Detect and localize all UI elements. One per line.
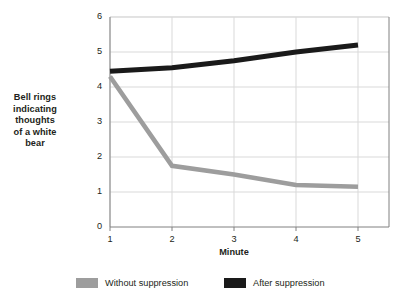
y-tick-label: 2: [86, 151, 102, 161]
y-tick-label: 6: [86, 11, 102, 21]
plot-area: [0, 0, 411, 306]
chart-figure: Bell rings indicating thoughts of a whit…: [0, 0, 411, 306]
x-tick-label: 5: [350, 234, 366, 244]
x-tick-label: 4: [288, 234, 304, 244]
x-tick-label: 3: [226, 234, 242, 244]
y-tick-label: 4: [86, 81, 102, 91]
legend-swatch-icon: [224, 278, 246, 288]
legend-item-without-suppression: Without suppression: [76, 275, 188, 291]
legend-swatch-icon: [76, 278, 98, 288]
legend-item-after-suppression: After suppression: [224, 275, 325, 291]
y-tick-label: 0: [86, 221, 102, 231]
y-tick-label: 3: [86, 116, 102, 126]
legend-label: After suppression: [253, 278, 325, 288]
x-tick-marks: [110, 227, 358, 231]
x-tick-label: 1: [102, 234, 118, 244]
x-tick-label: 2: [164, 234, 180, 244]
y-tick-label: 1: [86, 186, 102, 196]
legend-label: Without suppression: [105, 278, 188, 288]
y-tick-label: 5: [86, 46, 102, 56]
chart-legend: Without suppression After suppression: [76, 275, 396, 295]
x-axis-title: Minute: [110, 247, 358, 257]
